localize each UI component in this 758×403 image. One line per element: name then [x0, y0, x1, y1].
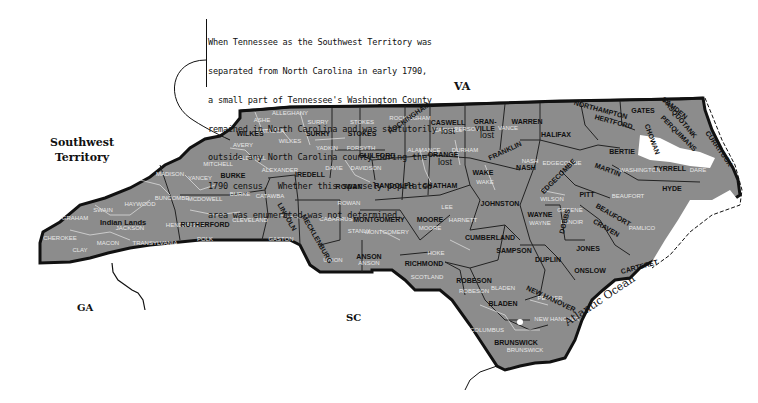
note-line: outside any North Carolina county during… — [208, 153, 478, 163]
note-line: area was enumerated was not determined. — [208, 211, 478, 221]
note-line: a small part of Tennessee's Washington C… — [208, 96, 478, 106]
sw-label-line1: Southwest — [50, 135, 114, 150]
census-note: When Tennessee as the Southwest Territor… — [208, 19, 478, 230]
note-line: remained in North Carolina and was statu… — [208, 125, 478, 135]
ga-label: GA — [77, 302, 93, 313]
sc-label: SC — [346, 312, 361, 323]
note-line: When Tennessee as the Southwest Territor… — [208, 38, 478, 48]
sc-coastline — [465, 366, 497, 390]
ga-sc-boundary — [112, 263, 145, 310]
indian-lands-label: Indian Lands — [100, 218, 146, 227]
note-bracket — [206, 19, 207, 87]
note-line: 1790 census. Whether this sparsely popul… — [208, 182, 478, 192]
note-line: separated from North Carolina in early 1… — [208, 67, 478, 77]
sw-label-line2: Territory — [50, 150, 114, 165]
southwest-territory-label: Southwest Territory — [50, 135, 114, 165]
wilmington-dot — [517, 319, 523, 325]
va-label: VA — [454, 80, 470, 93]
